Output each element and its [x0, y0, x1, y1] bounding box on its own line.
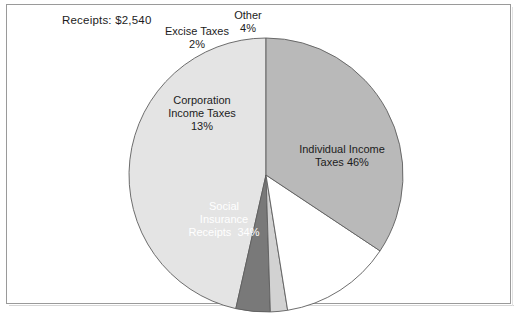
receipts-total-label: Receipts: $2,540 — [62, 14, 152, 27]
slice-label-corporation-income-taxes: Corporation Income Taxes 13% — [157, 94, 247, 133]
slice-label-individual-income-taxes: Individual Income Taxes 46% — [289, 143, 395, 169]
pie-slice-group — [129, 38, 403, 312]
pie-chart — [0, 0, 517, 316]
slice-label-social-insurance-receipts: Social Insurance Receipts 34% — [182, 200, 266, 239]
slice-label-excise-taxes: Excise Taxes 2% — [158, 25, 236, 51]
chart-screenshot: Receipts: $2,540 Other 4% Excise Taxes 2… — [0, 0, 517, 316]
